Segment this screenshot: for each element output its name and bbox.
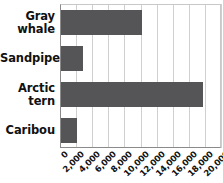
category-label-line: Caribou xyxy=(0,124,55,137)
category-label: Arctictern xyxy=(0,82,55,107)
category-label: Graywhale xyxy=(0,10,55,35)
category-label-line: Arctic xyxy=(0,82,55,95)
category-label-line: Gray xyxy=(0,10,55,23)
bar-series xyxy=(60,4,221,148)
gridline xyxy=(221,4,222,148)
category-label: Sandpiper xyxy=(0,52,55,65)
plot-area xyxy=(60,4,221,148)
bar xyxy=(61,118,77,143)
bar-chart: GraywhaleSandpiperArcticternCaribou 02,0… xyxy=(0,0,223,183)
category-label-line: whale xyxy=(0,23,55,36)
bar xyxy=(61,46,83,71)
category-label-line: Sandpiper xyxy=(0,52,55,65)
category-axis-labels: GraywhaleSandpiperArcticternCaribou xyxy=(0,4,57,148)
value-axis-ticks: 02,0004,0006,0008,00010,00012,00014,0001… xyxy=(60,149,221,183)
bar xyxy=(61,82,203,107)
category-label-line: tern xyxy=(0,95,55,108)
bar xyxy=(61,10,142,35)
category-label: Caribou xyxy=(0,124,55,137)
